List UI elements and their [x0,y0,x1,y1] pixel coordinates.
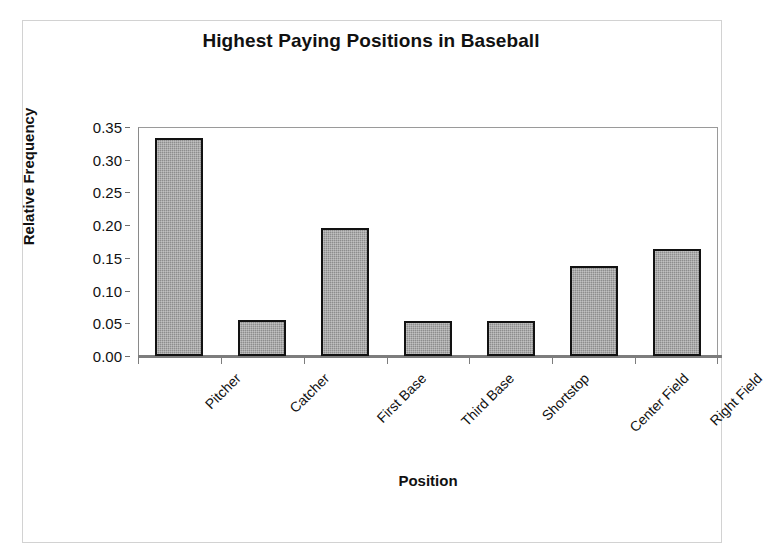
y-tick-label: 0.15 [93,249,122,266]
chart-title: Highest Paying Positions in Baseball [0,30,742,52]
bar-slot [138,127,221,356]
x-axis-title: Position [138,472,718,489]
bar-slot [469,127,552,356]
y-tick-mark [125,225,130,226]
y-axis-title: Relative Frequency [20,87,37,267]
y-axis-tick-labels: 0.000.050.100.150.200.250.300.35 [62,127,130,356]
x-tick-label: Catcher [287,370,333,416]
y-tick-label: 0.10 [93,282,122,299]
y-tick-label: 0.00 [93,348,122,365]
y-tick-label: 0.35 [93,119,122,136]
y-tick-mark [125,258,130,259]
bar-slot [221,127,304,356]
bar-slot [552,127,635,356]
y-tick-mark [125,323,130,324]
y-tick-mark [125,192,130,193]
y-tick-mark [125,356,130,357]
x-axis-tick-labels: PitcherCatcherFirst BaseThird BaseShorts… [138,364,718,454]
x-tick-label: Right Field [706,370,765,429]
x-tick-label: First Base [374,370,430,426]
y-tick-mark [125,291,130,292]
y-tick-label: 0.05 [93,315,122,332]
bar-catcher [238,320,286,356]
bars-group [138,127,718,356]
y-tick-label: 0.20 [93,217,122,234]
y-tick-label: 0.25 [93,184,122,201]
x-tick-label: Shortstop [538,370,592,424]
bar-shortstop [487,321,535,356]
x-tick-label: Center Field [626,370,691,435]
bar-slot [387,127,470,356]
y-tick-mark [125,160,130,161]
bar-right-field [653,249,701,356]
bar-center-field [570,266,618,356]
y-tick-label: 0.30 [93,151,122,168]
bar-slot [304,127,387,356]
bar-slot [635,127,718,356]
bar-third-base [404,321,452,356]
y-tick-mark [125,127,130,128]
x-tick-label: Pitcher [202,370,244,412]
bar-first-base [321,228,369,356]
bar-pitcher [155,138,203,356]
x-tick-label: Third Base [458,370,517,429]
